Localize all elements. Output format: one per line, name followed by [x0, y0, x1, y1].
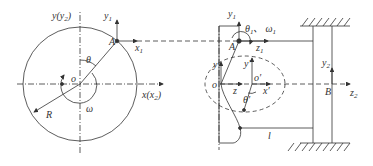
- omega-arc: [61, 73, 97, 103]
- o-prime-label: o′: [254, 72, 262, 83]
- svg-text:z1: z1: [255, 42, 263, 55]
- origin-marker: [61, 83, 64, 86]
- point-A: [237, 39, 241, 43]
- mechanism-diagram: y(y2) x(x2) o A y1 x1 θ ω R: [0, 0, 373, 166]
- svg-text:x(x2): x(x2): [141, 89, 162, 102]
- svg-text:y1: y1: [103, 10, 112, 23]
- length-label: l: [268, 130, 271, 141]
- point-B-label: B: [325, 86, 331, 97]
- link-end-point: [239, 127, 242, 130]
- svg-text:y1: y1: [227, 8, 236, 21]
- crank-end-point: [243, 109, 246, 112]
- z-label: z: [232, 85, 237, 96]
- hatching: [288, 18, 350, 151]
- svg-text:θ1、ω1: θ1、ω1: [245, 23, 276, 36]
- point-A-label: A: [108, 36, 116, 47]
- svg-text:x1: x1: [134, 42, 143, 55]
- svg-text:y2: y2: [321, 57, 330, 70]
- left-labels: y(y2) x(x2) o A y1 x1 θ ω R: [45, 10, 162, 120]
- left-view: [17, 12, 240, 153]
- y-label: y: [212, 59, 218, 70]
- svg-text:y(y2): y(y2): [51, 10, 72, 23]
- radius-R-arrow: [34, 84, 80, 112]
- radius-label: R: [45, 109, 52, 120]
- link-lower-curve: [221, 84, 241, 143]
- theta-prime-label: θ′: [243, 94, 251, 105]
- y-prime-label: y′: [243, 58, 251, 69]
- svg-text:z2: z2: [349, 87, 358, 100]
- point-A-label: A: [228, 41, 236, 52]
- x-prime-label: x′: [262, 85, 270, 96]
- right-labels: y1 θ1、ω1 A z1 y y′ o o′ z x′ θ′ l y2 B z…: [212, 8, 358, 141]
- point-A: [115, 39, 119, 43]
- right-view: [205, 18, 350, 151]
- theta-label: θ: [86, 54, 91, 65]
- origin-label: o: [212, 79, 217, 90]
- omega-label: ω: [86, 103, 93, 114]
- origin-label: o: [71, 73, 76, 84]
